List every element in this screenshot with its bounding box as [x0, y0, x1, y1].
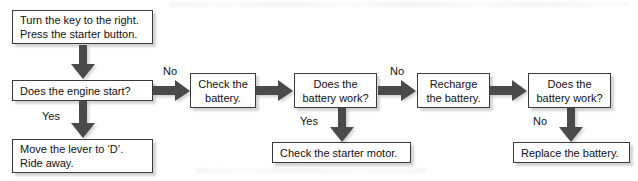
edge-label-battery-1-yes: Yes	[300, 115, 318, 127]
arrow-right-battery-1-no-to-recharge	[378, 80, 417, 102]
arrow-down-engine-yes-to-ride-away	[70, 101, 96, 139]
check-the-battery-box: Check the battery.	[190, 73, 256, 108]
battery-work-1-line-1: Does the	[313, 77, 357, 91]
replace-the-battery-box: Replace the battery.	[513, 142, 630, 163]
edge-label-engine-no: No	[163, 65, 177, 77]
battery-work-2-line-2: battery work?	[536, 91, 602, 105]
arrow-right-recharge-to-battery-question-2	[490, 80, 528, 102]
arrow-down-battery-1-yes-to-starter-motor	[329, 108, 355, 143]
scan-artifact-bottom	[196, 168, 426, 173]
move-the-lever-box-line-1: Move the lever to ‘D’.	[20, 142, 123, 156]
check-the-battery-line-1: Check the	[198, 77, 248, 91]
edge-label-engine-yes: Yes	[42, 110, 60, 122]
edge-label-battery-2-no: No	[533, 115, 547, 127]
check-the-battery-line-2: battery.	[205, 91, 241, 105]
battery-work-2-line-1: Does the	[547, 77, 591, 91]
arrow-right-check-battery-to-battery-question-1	[256, 80, 294, 102]
does-the-engine-start-box: Does the engine start?	[12, 80, 153, 101]
recharge-the-battery-line-2: the battery.	[426, 91, 480, 105]
arrow-down-start-to-engine-question	[70, 45, 96, 80]
arrow-right-engine-no-to-check-battery	[153, 80, 191, 102]
edge-label-battery-1-no: No	[390, 65, 404, 77]
flowchart-canvas: Turn the key to the right. Press the sta…	[0, 0, 638, 181]
recharge-the-battery-box: Recharge the battery.	[417, 73, 490, 108]
move-the-lever-box: Move the lever to ‘D’. Ride away.	[12, 139, 153, 173]
scan-artifact-top	[170, 2, 630, 7]
recharge-the-battery-line-1: Recharge	[430, 77, 478, 91]
check-the-starter-motor-label: Check the starter motor.	[280, 146, 397, 160]
replace-the-battery-label: Replace the battery.	[521, 146, 619, 160]
does-the-engine-start-label: Does the engine start?	[20, 84, 131, 98]
arrow-down-battery-2-no-to-replace	[558, 108, 584, 143]
check-the-starter-motor-box: Check the starter motor.	[272, 142, 411, 163]
does-the-battery-work-box-1: Does the battery work?	[294, 73, 377, 108]
turn-the-key-box-line-1: Turn the key to the right.	[20, 13, 139, 27]
battery-work-1-line-2: battery work?	[302, 91, 368, 105]
move-the-lever-box-line-2: Ride away.	[20, 156, 74, 170]
does-the-battery-work-box-2: Does the battery work?	[528, 73, 611, 108]
turn-the-key-box: Turn the key to the right. Press the sta…	[12, 10, 153, 44]
turn-the-key-box-line-2: Press the starter button.	[20, 27, 137, 41]
